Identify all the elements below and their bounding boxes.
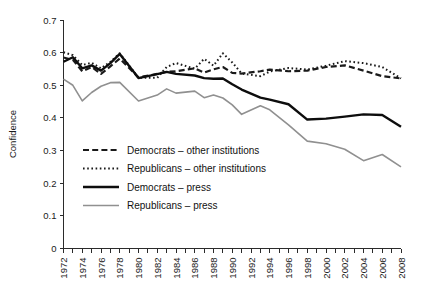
series-line-1 [64,52,402,78]
x-tick-label: 2004 [358,258,369,279]
y-tick-label: 0.3 [43,145,56,156]
x-tick-label: 2000 [321,258,332,279]
y-tick-label: 0.1 [43,210,56,221]
x-tick-label: 1992 [246,258,257,279]
x-tick-label: 1980 [133,258,144,279]
x-tick-label: 1978 [114,258,125,279]
y-tick-label: 0.5 [43,80,56,91]
legend-label-1: Republicans – other institutions [127,163,266,174]
x-tick-marks [64,249,402,253]
y-tick-label: 0.4 [43,112,56,123]
x-tick-label: 1994 [264,258,275,279]
x-tick-label: 2002 [339,258,350,279]
y-tick-label: 0.7 [43,15,56,26]
series-line-2 [64,54,402,127]
x-tick-label: 1986 [189,258,200,279]
legend-label-2: Democrats – press [127,182,211,193]
y-tick-label: 0.6 [43,47,56,58]
legend-label-3: Republicans – press [127,200,218,211]
x-tick-label: 1976 [96,258,107,279]
y-tick-label: 0 [51,243,56,254]
chart-canvas: 00.10.20.30.40.50.60.7 19721974197619781… [0,0,423,298]
y-axis: 00.10.20.30.40.50.60.7 [43,15,63,255]
x-tick-label: 1972 [58,258,69,279]
x-tick-label: 1984 [171,258,182,279]
x-tick-label: 1982 [152,258,163,279]
confidence-line-chart: 00.10.20.30.40.50.60.7 19721974197619781… [0,0,423,298]
x-axis: 1972197419761978198019821984198619881990… [58,249,407,279]
y-tick-labels: 00.10.20.30.40.50.60.7 [43,15,56,255]
legend-label-0: Democrats – other institutions [127,145,259,156]
x-tick-label: 1990 [227,258,238,279]
y-tick-marks [60,20,64,249]
x-tick-label: 2006 [377,258,388,279]
x-tick-labels: 1972197419761978198019821984198619881990… [58,258,407,279]
x-tick-label: 1974 [77,258,88,279]
y-axis-title: Confidence [7,110,18,158]
x-tick-label: 1988 [208,258,219,279]
chart-legend: Democrats – other institutionsRepublican… [83,145,266,212]
x-tick-label: 2008 [396,258,407,279]
x-tick-label: 1998 [302,258,313,279]
y-tick-label: 0.2 [43,178,56,189]
x-tick-label: 1996 [283,258,294,279]
